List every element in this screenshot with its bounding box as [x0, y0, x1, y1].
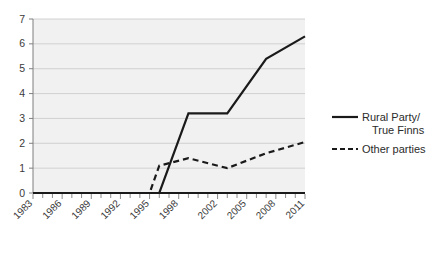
x-axis-label-2011: 2011	[283, 197, 306, 220]
legend-label-rural-party-line2: True Finns	[372, 124, 425, 136]
x-axis-label-1998: 1998	[157, 197, 181, 221]
x-axis-label-2005: 2005	[225, 197, 249, 221]
y-axis-label-2: 2	[19, 137, 25, 149]
x-axis-label-2008: 2008	[254, 197, 278, 221]
x-axis-label-1995: 1995	[127, 197, 151, 221]
y-axis-label-4: 4	[19, 87, 25, 99]
x-axis-label-1989: 1989	[69, 197, 93, 221]
chart-container: 01234567 1983198619891992199519982002200…	[0, 0, 436, 259]
line-chart: 01234567 1983198619891992199519982002200…	[0, 0, 436, 259]
y-axis-label-3: 3	[19, 112, 25, 124]
y-axis-label-1: 1	[19, 162, 25, 174]
legend-label-other-parties: Other parties	[362, 143, 426, 155]
x-axis-label-1986: 1986	[40, 197, 64, 221]
y-axis-ticks-group	[29, 19, 33, 193]
y-axis-label-0: 0	[19, 187, 25, 199]
x-axis-label-2002: 2002	[195, 197, 219, 221]
y-axis-labels-group: 01234567	[19, 13, 25, 199]
x-axis-label-1992: 1992	[98, 197, 122, 221]
x-axis-minor-ticks-group	[43, 194, 296, 198]
legend: Rural Party/ True Finns Other parties	[332, 111, 426, 155]
y-axis-label-5: 5	[19, 62, 25, 74]
legend-label-rural-party-line1: Rural Party/	[362, 111, 421, 123]
x-axis-label-1983: 1983	[11, 197, 35, 221]
y-axis-label-7: 7	[19, 13, 25, 25]
x-axis-labels-group: 1983198619891992199519982002200520082011	[11, 197, 307, 221]
y-axis-label-6: 6	[19, 37, 25, 49]
